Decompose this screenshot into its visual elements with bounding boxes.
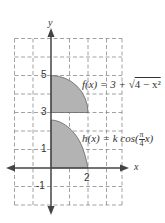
y-tick-5: 5: [41, 69, 47, 80]
x-axis-arrow-left-icon: [6, 165, 15, 172]
x-tick-2: 2: [84, 172, 90, 183]
y-axis-arrow-up-icon: [48, 28, 55, 37]
y-tick-neg1: -1: [36, 180, 45, 191]
x-axis-arrow-right-icon: [120, 165, 129, 172]
y-tick-3: 3: [41, 106, 47, 117]
y-axis-arrow-down-icon: [48, 206, 55, 215]
h-equation-rhs: x): [145, 132, 154, 144]
f-equation-lhs: f(x) = 3 +: [82, 78, 129, 90]
f-equation-radicand: 4 − x²: [135, 78, 161, 90]
grid: [15, 39, 123, 206]
h-equation-label: h(x) = k cos(π4x): [82, 131, 153, 148]
f-equation-label: f(x) = 3 + √4 − x²: [82, 78, 161, 90]
h-equation-lhs: h(x) = k cos(: [82, 132, 139, 144]
y-axis-label: y: [48, 17, 52, 28]
axes: [9, 32, 126, 212]
y-tick-1: 1: [41, 143, 47, 154]
x-axis-label: x: [134, 161, 138, 172]
coordinate-plane: [0, 0, 165, 223]
